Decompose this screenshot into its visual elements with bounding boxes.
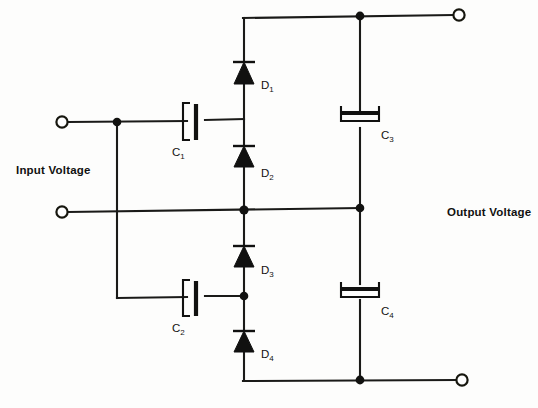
junction-center: [239, 205, 248, 214]
output-voltage-label: Output Voltage: [447, 206, 531, 218]
diode-d1-label: D1: [261, 79, 274, 94]
d3-triangle: [234, 246, 254, 267]
terminal-group: [56, 9, 467, 385]
capacitor-c3: C3: [341, 106, 394, 144]
circuit-schematic: C1 C2 C3 C4 D1 D2 D3 D4: [0, 0, 538, 408]
output-terminal-bottom[interactable]: [456, 374, 467, 385]
d2-triangle: [234, 146, 254, 167]
input-terminal-bottom[interactable]: [56, 206, 67, 217]
capacitor-c3-label: C3: [381, 129, 394, 144]
junction-top-rail: [356, 12, 365, 21]
capacitor-c4-label: C4: [381, 305, 394, 320]
wire-group: [68, 15, 456, 381]
junction-bottom-rail: [356, 376, 365, 385]
capacitor-c2-label: C2: [172, 322, 185, 337]
input-terminal-top[interactable]: [56, 116, 67, 127]
output-terminal-top[interactable]: [453, 9, 464, 20]
capacitor-c2: C2: [172, 280, 196, 337]
capacitor-c1: C1: [172, 103, 196, 161]
diode-d4-label: D4: [261, 348, 274, 363]
d4-triangle: [234, 331, 254, 352]
junction-mid-right: [356, 204, 365, 213]
capacitor-c4: C4: [341, 282, 394, 320]
diode-d2: D2: [233, 146, 274, 182]
wire-bottom-rail: [243, 380, 456, 381]
d1-triangle: [234, 62, 254, 84]
diode-d1: D1: [233, 62, 274, 94]
input-voltage-label: Input Voltage: [16, 164, 91, 176]
diode-d3: D3: [233, 246, 274, 279]
diode-d4: D4: [233, 331, 274, 363]
wire-middle-rail: [68, 208, 360, 212]
junction-c2-right: [240, 292, 249, 301]
diode-d3-label: D3: [261, 264, 274, 279]
wire-c2-left-lead: [117, 297, 187, 298]
capacitor-c1-label: C1: [172, 146, 185, 161]
diode-d2-label: D2: [261, 167, 274, 182]
wire-input-top-lead: [68, 121, 187, 122]
wire-top-rail: [243, 15, 453, 18]
junction-dots: [113, 12, 365, 385]
wire-c1-to-column: [205, 119, 244, 120]
junction-input-top: [113, 118, 122, 127]
